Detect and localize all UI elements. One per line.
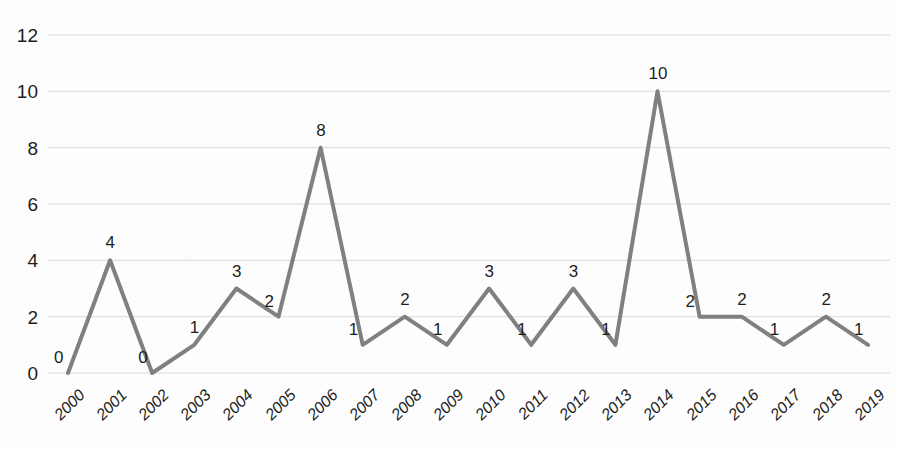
data-label-2009: 1 <box>433 321 442 338</box>
data-label-2012: 3 <box>569 263 578 280</box>
line-chart: 024681012 040132812131311022121 20002001… <box>0 0 897 450</box>
data-label-2004: 3 <box>232 263 241 280</box>
data-label-2016: 2 <box>737 291 746 308</box>
data-label-2015: 2 <box>686 293 695 310</box>
data-label-2010: 3 <box>485 263 494 280</box>
data-label-2011: 1 <box>517 321 526 338</box>
data-label-2018: 2 <box>821 291 830 308</box>
data-label-2013: 1 <box>601 321 610 338</box>
data-label-2001: 4 <box>106 234 115 251</box>
data-label-2007: 1 <box>349 321 358 338</box>
data-label-2017: 1 <box>770 321 779 338</box>
series-line-0 <box>68 91 868 373</box>
data-label-2003: 1 <box>190 319 199 336</box>
data-label-2002: 0 <box>138 349 147 366</box>
data-label-2006: 8 <box>316 122 325 139</box>
data-label-2005: 2 <box>265 293 274 310</box>
data-label-2019: 1 <box>854 321 863 338</box>
plot-area <box>0 0 897 450</box>
data-label-2008: 2 <box>400 291 409 308</box>
data-label-2000: 0 <box>54 349 63 366</box>
data-label-2014: 10 <box>648 65 667 82</box>
